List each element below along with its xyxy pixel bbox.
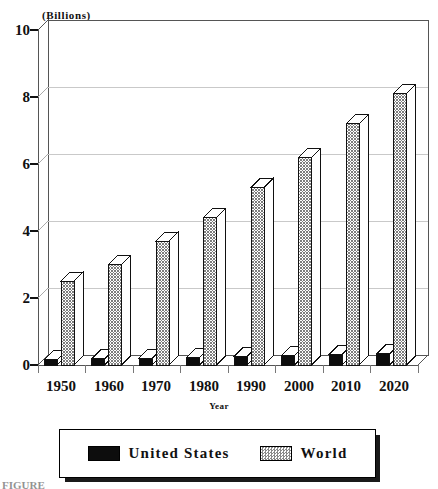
y-tick-label-10: 10 [2,25,30,35]
bar-world-1970 [156,232,178,365]
y-tick-label-6: 6 [2,159,30,169]
legend-entry-united-states: United States [88,445,230,462]
figure-caption: FIGURE [2,479,252,489]
figure-container: (Billions) [0,0,438,489]
legend-swatch-solid-black-icon [88,446,120,461]
legend-label-united-states: United States [129,445,230,462]
bar-world-1990 [251,178,273,365]
bar-world-2010 [346,115,368,365]
x-tick-label-1960: 1960 [86,378,132,395]
x-axis-ticks [38,365,418,373]
legend-label-world: World [301,445,348,462]
y-tick-label-4: 4 [2,226,30,236]
y-tick-label-2: 2 [2,293,30,303]
chart-legend: United States World [59,429,376,478]
x-tick-label-1950: 1950 [38,378,84,395]
bar-world-1960 [109,256,131,366]
bar-world-1980 [204,209,226,365]
legend-entry-world: World [260,445,348,462]
y-axis-ticks [30,30,38,365]
y-tick-label-8: 8 [2,92,30,102]
bar-world-2020 [394,85,416,365]
legend-swatch-checkered-gray-icon [260,446,292,461]
x-tick-label-1980: 1980 [181,378,227,395]
x-tick-label-2010: 2010 [323,378,369,395]
plot-back-wall [48,20,428,355]
x-axis-title: Year [0,401,438,411]
x-tick-label-1990: 1990 [228,378,274,395]
bar-world-1950 [61,272,83,365]
plot-area [0,0,438,489]
x-tick-label-2020: 2020 [371,378,417,395]
x-tick-label-2000: 2000 [276,378,322,395]
x-tick-label-1970: 1970 [133,378,179,395]
bar-world-2000 [299,148,321,365]
plot-left-wall [38,20,48,365]
y-tick-label-0: 0 [2,360,30,370]
